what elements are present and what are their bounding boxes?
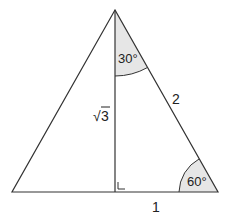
hypotenuse-label: 2 (172, 91, 180, 107)
base-label: 1 (152, 199, 160, 215)
radical-sign: √ (93, 108, 101, 124)
triangle-diagram: 30° 60° 2 1 √ 3 (0, 0, 231, 220)
height-label: √ 3 (93, 107, 110, 124)
angle-30-sector (115, 10, 148, 76)
height-value: 3 (101, 108, 109, 124)
angle-30-label: 30° (118, 51, 138, 66)
angle-60-label: 60° (187, 174, 207, 189)
right-angle-mark (118, 182, 125, 189)
